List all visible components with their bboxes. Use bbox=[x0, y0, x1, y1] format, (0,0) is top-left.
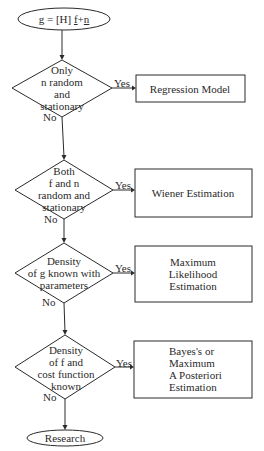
decision-3-line-1: Density bbox=[28, 255, 100, 267]
decision-2-line-1: Both bbox=[38, 165, 90, 177]
outcome-3-text: Maximum Likelihood Estimation bbox=[169, 256, 217, 292]
start-part-n: n bbox=[84, 13, 90, 25]
outcome-4-line-3: A Posteriori bbox=[169, 369, 222, 381]
decision-1-line-3: and bbox=[40, 88, 83, 100]
outcome-4-line-4: Estimation bbox=[169, 381, 222, 393]
arrowhead bbox=[63, 330, 68, 335]
outcome-4-line-1: Bayes's or bbox=[169, 345, 222, 357]
decision-2-line-4: stationary bbox=[38, 201, 90, 213]
outcome-1-label: Regression Model bbox=[150, 83, 230, 95]
decision-4-line-1: Density bbox=[37, 344, 94, 356]
decision-1-no-label: No bbox=[43, 111, 56, 123]
outcome-3-line-3: Estimation bbox=[169, 280, 217, 292]
decision-3-line-3: parameters bbox=[28, 279, 100, 291]
connector-d1-no bbox=[62, 117, 64, 157]
arrowhead bbox=[131, 271, 135, 276]
decision-2-line-3: random and bbox=[38, 189, 90, 201]
outcome-4-text: Bayes's or Maximum A Posteriori Estimati… bbox=[169, 345, 222, 393]
decision-3-line-2: of g known with bbox=[28, 267, 100, 279]
outcome-3-line-2: Likelihood bbox=[169, 268, 217, 280]
decision-1-text: Only n random and stationary bbox=[40, 64, 83, 112]
outcome-2-label: Wiener Estimation bbox=[152, 187, 234, 199]
decision-4-text: Density of f and cost function known bbox=[37, 344, 94, 392]
decision-4-no-label: No bbox=[43, 391, 56, 403]
arrowhead bbox=[60, 55, 65, 60]
decision-4-line-3: cost function bbox=[37, 368, 94, 380]
decision-3-no-label: No bbox=[42, 296, 55, 308]
outcome-4-line-2: Maximum bbox=[169, 357, 222, 369]
decision-3-text: Density of g known with parameters bbox=[28, 255, 100, 291]
decision-4-line-2: of f and bbox=[37, 356, 94, 368]
decision-3-yes-label: Yes bbox=[115, 262, 131, 274]
start-part-eq: = [H] bbox=[44, 13, 74, 25]
decision-1-line-1: Only bbox=[40, 64, 83, 76]
decision-4-yes-label: Yes bbox=[116, 357, 132, 369]
start-label: g = [H] f+n bbox=[39, 13, 90, 25]
arrowhead bbox=[131, 188, 135, 193]
arrowhead bbox=[62, 238, 67, 243]
arrowhead bbox=[62, 155, 67, 160]
end-label: Research bbox=[45, 432, 85, 444]
connector-d3-no bbox=[64, 303, 65, 332]
outcome-3-line-1: Maximum bbox=[169, 256, 217, 268]
arrowhead bbox=[63, 425, 68, 430]
decision-1-yes-label: Yes bbox=[114, 77, 130, 89]
decision-2-no-label: No bbox=[44, 213, 57, 225]
flowchart: g = [H] f+n Only n random and stationary… bbox=[0, 0, 264, 451]
decision-2-line-2: f and n bbox=[38, 177, 90, 189]
decision-2-yes-label: Yes bbox=[115, 179, 131, 191]
arrowhead bbox=[132, 86, 136, 91]
decision-2-text: Both f and n random and stationary bbox=[38, 165, 90, 213]
decision-1-line-2: n random bbox=[40, 76, 83, 88]
